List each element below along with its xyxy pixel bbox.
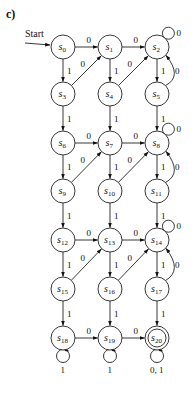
edge-label: 0 [134, 326, 139, 336]
edge-s2-s5: 1 [157, 59, 166, 82]
edge-label: 1 [67, 309, 72, 319]
edge-s7-s8: 0 [122, 131, 145, 143]
edge-line [71, 249, 101, 280]
edge-curve [165, 55, 174, 85]
state-s14: s14 [145, 228, 169, 252]
edge-label: 0 [87, 326, 92, 336]
self-loop [57, 350, 70, 363]
edge-s10-s13: 1 [110, 203, 119, 228]
edge-s9-s12: 1 [63, 203, 72, 228]
state-s7: s7 [98, 131, 122, 155]
state-s15: s15 [51, 277, 75, 301]
edge-s19-s20: 0 [122, 326, 145, 338]
edge-label: 1 [67, 260, 72, 270]
edge-label: 0 [128, 253, 133, 263]
edge-s1-s4: 1 [110, 59, 119, 82]
edge-curve [165, 248, 174, 280]
edge-label: 1 [61, 365, 66, 375]
edge-label: 0 [87, 228, 92, 238]
edge-label: 1 [114, 114, 119, 124]
edge-line [71, 56, 101, 86]
edge-label: 1 [108, 365, 113, 375]
edge-s5-s2: 0 [165, 55, 180, 85]
edge-s0-s3: 1 [63, 59, 72, 82]
edge-s16-s14: 0 [118, 249, 148, 280]
edge-label: 0 [175, 162, 180, 172]
edge-line [118, 56, 148, 86]
edge-s7-s10: 1 [110, 155, 119, 179]
edge-label: 0 [134, 228, 139, 238]
edge-label: 1 [161, 211, 166, 221]
edge-s4-s2: 0 [118, 56, 148, 86]
edge-s16-s19: 1 [110, 301, 119, 326]
edge-label: 0 [81, 59, 86, 69]
edge-s19-s19: 1 [104, 348, 117, 375]
edge-label: 1 [161, 114, 166, 124]
edge-label: 1 [161, 162, 166, 172]
edge-s13-s14: 0 [122, 228, 145, 240]
edge-label: 1 [114, 162, 119, 172]
edge-s15-s13: 0 [71, 249, 101, 280]
state-s3: s3 [51, 82, 75, 106]
edge-label: 1 [67, 211, 72, 221]
edge-s3-s6: 1 [63, 106, 72, 131]
edge-label: 1 [114, 260, 119, 270]
edge-s8-s11: 1 [157, 155, 166, 179]
edge-label: 0 [134, 131, 139, 141]
state-s17: s17 [145, 277, 169, 301]
edge-line [71, 152, 101, 182]
edge-line [118, 152, 148, 182]
edge-s10-s8: 0 [118, 152, 148, 182]
edge-label: 0 [87, 35, 92, 45]
edge-label: 0 [134, 35, 139, 45]
edge-s12-s15: 1 [63, 252, 72, 277]
self-loop [104, 350, 117, 363]
edge-s6-s9: 1 [63, 155, 72, 179]
edge-s17-s20: 1 [157, 301, 166, 326]
start-arrow: Start [25, 28, 50, 45]
edge-s14-s14: 0 [162, 220, 181, 232]
edge-label: 1 [114, 66, 119, 76]
state-s20: s20 [145, 326, 169, 350]
state-s8: s8 [145, 131, 169, 155]
edge-s9-s7: 0 [71, 152, 101, 182]
state-s0: s0 [51, 35, 75, 59]
edge-s6-s7: 0 [75, 131, 98, 143]
state-s12: s12 [51, 228, 75, 252]
edge-label: 0, 1 [150, 365, 164, 375]
edge-s4-s7: 1 [110, 106, 119, 131]
edge-s0-s1: 0 [75, 35, 98, 47]
edge-s13-s16: 1 [110, 252, 119, 277]
edge-s11-s14: 1 [157, 203, 166, 228]
edge-s18-s19: 0 [75, 326, 98, 338]
edge-label: 0 [81, 253, 86, 263]
edge-label: 1 [67, 162, 72, 172]
edge-line [118, 249, 148, 280]
state-s1: s1 [98, 35, 122, 59]
state-s4: s4 [98, 82, 122, 106]
edge-label: 0 [176, 124, 181, 134]
edge-s14-s17: 1 [157, 252, 166, 277]
state-s5: s5 [145, 82, 169, 106]
edge-s5-s8: 1 [157, 106, 166, 131]
edge-label: 1 [67, 114, 72, 124]
self-loop [151, 350, 164, 363]
state-s10: s10 [98, 179, 122, 203]
state-s11: s11 [145, 179, 169, 203]
edge-s11-s8: 0 [165, 151, 180, 182]
state-s18: s18 [51, 326, 75, 350]
edge-label: 0 [175, 260, 180, 270]
edge-s8-s8: 0 [162, 123, 181, 135]
edge-s15-s18: 1 [63, 301, 72, 326]
edge-label: 1 [67, 66, 72, 76]
edge-label: 0 [175, 66, 180, 76]
edge-label: 1 [161, 309, 166, 319]
state-s16: s16 [98, 277, 122, 301]
edge-s12-s13: 0 [75, 228, 98, 240]
start-arrow-line [25, 43, 50, 45]
edge-label: 0 [81, 155, 86, 165]
edge-s17-s14: 0 [165, 248, 180, 280]
edge-label: 0 [176, 221, 181, 231]
start-label: Start [25, 28, 44, 39]
edge-label: 1 [114, 309, 119, 319]
